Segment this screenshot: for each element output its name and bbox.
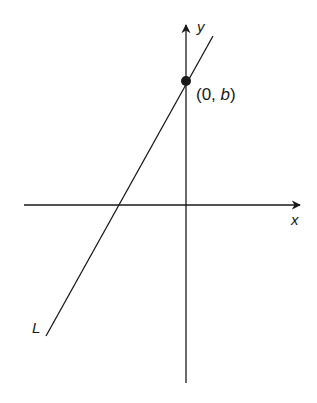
y-axis-label: y [196,18,206,35]
x-axis-label: x [290,211,299,228]
line-l-label: L [32,319,40,336]
y-intercept-point [181,76,191,86]
coordinate-diagram: x y L (0, b) [0,0,317,403]
y-intercept-label: (0, b) [196,85,236,104]
